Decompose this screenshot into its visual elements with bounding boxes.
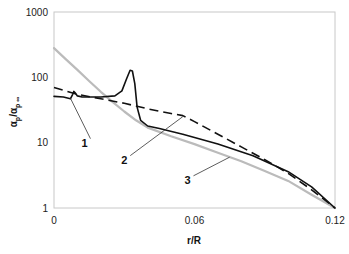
y-tick-label: 10 (37, 137, 49, 148)
x-tick-label: 0.12 (325, 215, 345, 226)
y-tick-label: 1 (42, 203, 48, 214)
y-tick-label: 1000 (26, 7, 49, 18)
annotation-label-1: 1 (81, 137, 87, 149)
x-tick-label: 0.06 (185, 215, 205, 226)
x-tick-label: 0 (51, 215, 57, 226)
y-axis-label: αp/αp ∞ (8, 97, 22, 128)
annotation-label-3: 3 (184, 174, 190, 186)
annotation-label-2: 2 (121, 154, 127, 166)
plot-frame (54, 12, 335, 208)
svg-text:αp/αp ∞: αp/αp ∞ (8, 97, 22, 128)
y-label-sub2: p ∞ (14, 97, 22, 108)
x-tick-labels: 00.060.12 (51, 215, 345, 226)
y-tick-label: 100 (31, 72, 48, 83)
x-axis-label: r/R (187, 235, 202, 246)
y-tick-labels: 1101001000 (26, 7, 49, 214)
chart: 1101001000 00.060.12 123 r/R αp/αp ∞ (0, 0, 349, 254)
